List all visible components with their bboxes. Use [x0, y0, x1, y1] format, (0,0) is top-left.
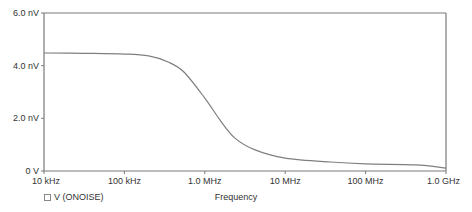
x-axis-title: Frequency [0, 192, 472, 202]
y-tick-label: 6.0 nV [13, 8, 39, 18]
y-tick-label: 2.0 nV [13, 113, 39, 123]
y-axis: 0 V2.0 nV4.0 nV6.0 nV [13, 8, 44, 176]
x-tick-label: 1.0 GHz [427, 176, 461, 186]
x-tick-label: 10 MHz [270, 176, 302, 186]
x-tick-label: 10 kHz [32, 176, 61, 186]
x-tick-label: 100 MHz [348, 176, 385, 186]
y-tick-label: 4.0 nV [13, 61, 39, 71]
plot-frame [44, 13, 446, 171]
series-line-onoise [44, 53, 446, 168]
noise-chart: 0 V2.0 nV4.0 nV6.0 nV 10 kHz100 kHz1.0 M… [0, 0, 472, 212]
y-tick-label: 0 V [25, 166, 39, 176]
x-tick-label: 1.0 MHz [188, 176, 222, 186]
x-tick-label: 100 kHz [108, 176, 142, 186]
x-axis: 10 kHz100 kHz1.0 MHz10 MHz100 MHz1.0 GHz [32, 171, 460, 186]
